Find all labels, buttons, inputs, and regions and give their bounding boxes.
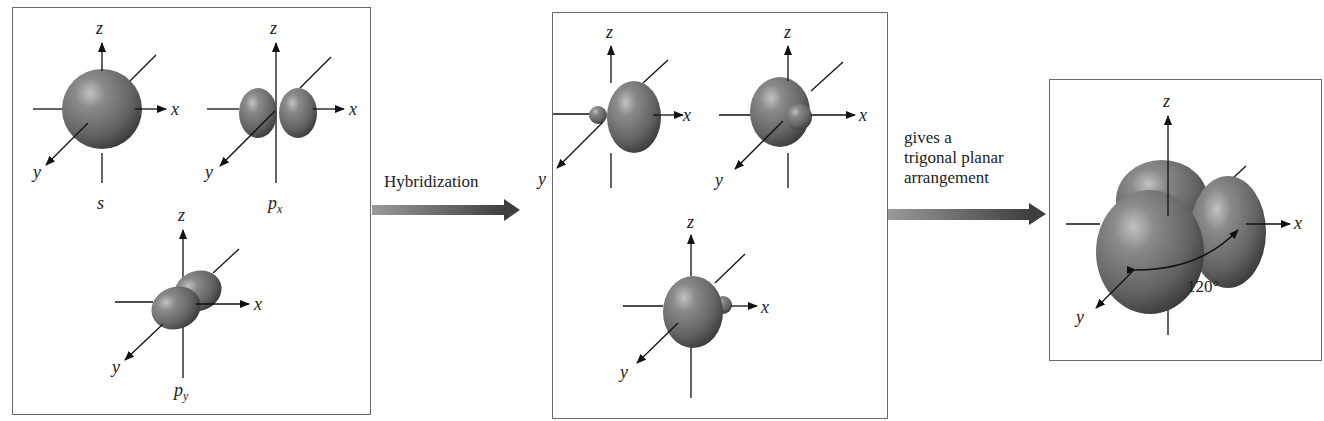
px-orbital (207, 43, 344, 183)
trigonal-planar-panel: z x y 120° (1049, 79, 1322, 361)
px-y-axis-label: y (205, 163, 213, 181)
s-y-axis-label: y (33, 163, 41, 181)
py-z-axis-label: z (178, 206, 185, 224)
right-arrow-icon (888, 125, 1050, 235)
sp2-3-y-axis-label: y (620, 363, 628, 381)
s-z-axis-label: z (96, 19, 103, 37)
right-arrow-icon (372, 160, 552, 230)
sp2-1-y-axis-label: y (538, 170, 546, 188)
sp2-orbital-3 (623, 235, 757, 398)
bond-angle-label: 120° (1187, 277, 1219, 297)
trigonal-planar-arrow: gives a trigonal planar arrangement (888, 125, 1050, 235)
py-orbital-label: py (174, 381, 188, 399)
trigonal-y-axis-label: y (1076, 308, 1084, 326)
sp2-3-z-axis-label: z (687, 213, 694, 231)
sp2-orbital-2 (719, 46, 855, 188)
sp2-1-x-axis-label: x (683, 106, 691, 124)
sp2-1-z-axis-label: z (606, 23, 613, 41)
hybrid-orbitals-panel: z x z x y z x y (552, 12, 888, 419)
px-z-axis-label: z (270, 19, 277, 37)
px-orbital-label: px (268, 194, 282, 212)
sp2-3-x-axis-label: x (761, 298, 769, 316)
trigonal-z-axis-label: z (1163, 92, 1170, 110)
py-x-axis-label: x (254, 295, 262, 313)
px-x-axis-label: x (349, 100, 357, 118)
atomic-orbitals-panel: z x y s z x y px z x y py (12, 7, 371, 415)
sp2-2-y-axis-label: y (715, 171, 723, 189)
trigonal-x-axis-label: x (1294, 214, 1302, 232)
sp2-2-x-axis-label: x (859, 106, 867, 124)
sp2-orbital-1 (553, 46, 683, 188)
sp2-2-z-axis-label: z (784, 23, 791, 41)
s-x-axis-label: x (171, 100, 179, 118)
py-orbital (115, 230, 249, 378)
atomic-orbitals-drawing (13, 8, 372, 416)
py-y-axis-label: y (112, 358, 120, 376)
trigonal-planar-drawing (1050, 80, 1323, 362)
s-orbital (33, 43, 166, 183)
hybridization-arrow: Hybridization (372, 160, 552, 230)
hybrid-orbitals-drawing (553, 13, 889, 420)
s-orbital-label: s (97, 194, 104, 212)
